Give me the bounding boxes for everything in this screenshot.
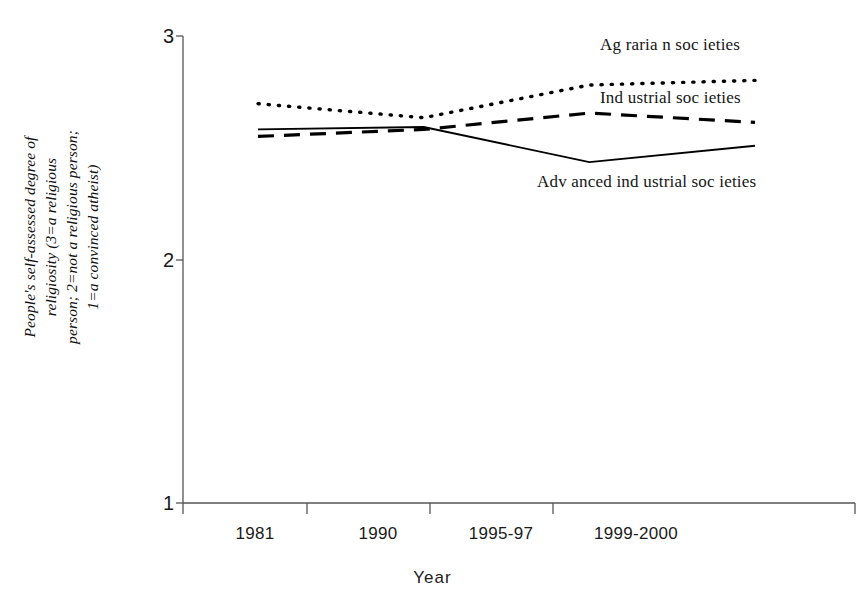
- plot-area: [0, 0, 865, 609]
- series-line-advanced-industrial: [258, 127, 755, 162]
- series-line-industrial: [258, 113, 755, 136]
- chart-container: People's self-assessed degree of religio…: [0, 0, 865, 609]
- series-line-agrarian: [258, 80, 755, 117]
